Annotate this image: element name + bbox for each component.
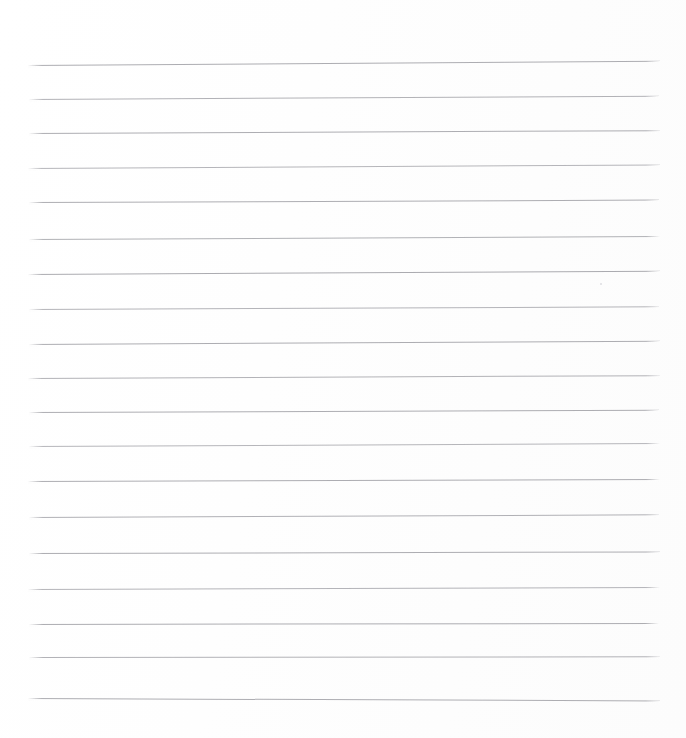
ruled-line bbox=[28, 61, 660, 66]
ruled-line bbox=[29, 306, 659, 310]
ruled-line bbox=[29, 410, 659, 413]
ruled-line bbox=[29, 656, 660, 658]
ruled-line bbox=[29, 514, 659, 518]
ruled-line bbox=[29, 96, 659, 100]
ruled-line bbox=[29, 130, 660, 134]
ruled-line bbox=[28, 271, 660, 275]
ruled-line bbox=[29, 623, 659, 625]
ruled-line bbox=[29, 551, 660, 554]
ruled-line bbox=[29, 200, 659, 203]
ruled-line bbox=[28, 698, 660, 701]
ruled-line bbox=[28, 479, 660, 482]
ruled-line bbox=[28, 164, 660, 169]
ruled-line bbox=[29, 341, 660, 345]
ruled-lines-group bbox=[0, 0, 686, 738]
ruled-line bbox=[29, 236, 660, 240]
ruled-line bbox=[28, 375, 660, 379]
ruled-line bbox=[29, 443, 660, 447]
ruled-line bbox=[28, 587, 660, 590]
lined-paper-page: A scanned sheet of blank lined writing p… bbox=[0, 0, 686, 738]
